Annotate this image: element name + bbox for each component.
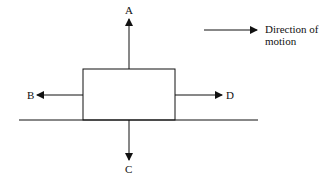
label-c: C: [125, 163, 132, 175]
legend-line-2: motion: [265, 35, 318, 47]
legend-line-1: Direction of: [265, 23, 318, 35]
label-d: D: [226, 89, 234, 101]
legend-direction-of-motion: Direction of motion: [265, 23, 318, 47]
block: [83, 69, 175, 120]
label-a: A: [125, 4, 133, 16]
label-b: B: [27, 89, 34, 101]
